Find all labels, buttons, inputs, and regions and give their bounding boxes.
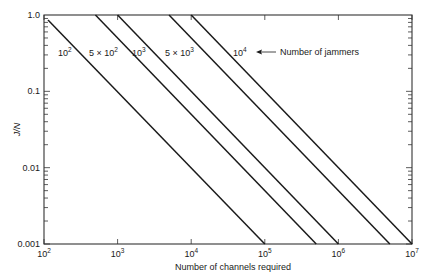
series-label: 104 (233, 46, 247, 58)
x-tick-label: 103 (111, 247, 125, 259)
series-label: 5 × 103 (165, 46, 194, 58)
series-label: 5 × 102 (89, 46, 118, 58)
x-tick-label: 107 (405, 247, 419, 259)
y-axis-title: J/N (12, 122, 22, 137)
y-tick-label: 1.0 (27, 10, 40, 20)
y-tick-label: 0.1 (27, 86, 40, 96)
series-label: 102 (58, 46, 72, 58)
annotation-text: Number of jammers (280, 47, 360, 57)
y-tick-label: 0.01 (22, 163, 40, 173)
x-tick-label: 105 (258, 247, 272, 259)
jammers-chart: 1021031041051061071.00.10.010.001Number … (0, 0, 428, 279)
x-axis-title: Number of channels required (175, 262, 291, 272)
x-tick-label: 106 (332, 247, 346, 259)
x-tick-label: 104 (184, 247, 198, 259)
series-label: 103 (132, 46, 146, 58)
y-tick-label: 0.001 (17, 239, 40, 249)
